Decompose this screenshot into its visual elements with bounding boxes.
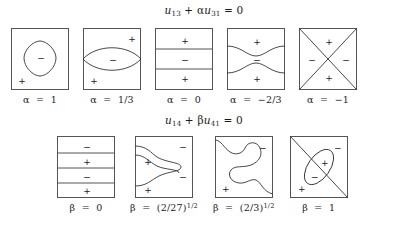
panel-beta-2: − + − + β = (2/27)1/2	[130, 136, 198, 213]
panel-beta-4-caption: β = 1	[302, 202, 335, 213]
caption-equals: =	[177, 94, 192, 105]
panel-alpha-2-caption: α = 1/3	[90, 94, 134, 105]
caption-symbol: β	[302, 202, 308, 213]
sign-plus-bottom-left: +	[90, 77, 98, 86]
sign-minus-1: −	[83, 143, 91, 152]
caption-symbol: β	[213, 202, 219, 213]
nodal-pattern-figure: u13 + αu31 = 0 − + α = 1	[0, 0, 408, 232]
panel-beta-3-box: − +	[215, 136, 273, 198]
panel-alpha-4-caption: α = −2/3	[230, 94, 282, 105]
panel-beta-2-caption: β = (2/27)1/2	[130, 202, 198, 213]
caption-exponent: 1/2	[187, 202, 198, 210]
sign-plus-top-right: +	[128, 35, 136, 44]
panel-alpha-5: + − − + α = −1	[299, 28, 357, 105]
sign-minus: −	[109, 56, 117, 65]
panel-beta-2-box: − + − +	[135, 136, 193, 198]
sign-plus-top: +	[181, 37, 189, 46]
beta-eq-equals: = 0	[224, 114, 243, 126]
sign-minus: −	[37, 54, 45, 63]
sign-minus-top-right: −	[334, 144, 342, 153]
beta-row-equation: u14 + βu41 = 0	[0, 114, 408, 128]
panel-beta-1: − + − + β = 0	[57, 136, 115, 213]
panel-beta-4-box: − + − +	[290, 136, 348, 198]
caption-equals: =	[139, 202, 154, 213]
sign-plus-bottom: +	[144, 186, 152, 195]
sign-minus-middle: −	[181, 56, 189, 65]
caption-equals: =	[311, 202, 326, 213]
sign-minus-top: −	[179, 143, 187, 152]
caption-equals: =	[100, 94, 115, 105]
sign-minus-inner-lower: −	[311, 173, 319, 182]
panel-alpha-2-box: − + +	[83, 28, 141, 90]
caption-symbol: β	[69, 202, 75, 213]
panel-alpha-5-caption: α = −1	[307, 94, 349, 105]
sign-plus-bottom-left: +	[298, 185, 306, 194]
alpha-panels: − + α = 1 − + +	[11, 28, 357, 105]
panel-alpha-1-caption: α = 1	[23, 94, 57, 105]
caption-value: 1	[51, 94, 57, 105]
sign-plus-1: +	[83, 158, 91, 167]
sign-plus-bottom-left: +	[222, 185, 230, 194]
alpha-eq-equals: = 0	[224, 4, 243, 16]
panel-beta-4: − + − + β = 1	[290, 136, 348, 213]
beta-eq-lhs-subscript: 14	[172, 119, 181, 128]
sign-minus-2: −	[83, 173, 91, 182]
caption-equals: =	[317, 94, 332, 105]
sign-plus: +	[18, 77, 26, 86]
caption-value: (2/3)	[240, 202, 264, 213]
alpha-row: u13 + αu31 = 0 − + α = 1	[0, 0, 408, 112]
caption-symbol: α	[307, 94, 314, 105]
caption-equals: =	[33, 94, 48, 105]
caption-value: 0	[195, 94, 201, 105]
panel-beta-3-caption: β = (2/3)1/2	[213, 202, 275, 213]
sign-plus-inner-upper: +	[321, 159, 329, 168]
sign-minus-middle: −	[253, 56, 261, 65]
caption-equals: =	[222, 202, 237, 213]
caption-value: 1/3	[118, 94, 134, 105]
sign-plus-top: +	[325, 38, 333, 47]
panel-alpha-3: + − + α = 0	[155, 28, 213, 105]
caption-symbol: α	[167, 94, 174, 105]
alpha-row-equation: u13 + αu31 = 0	[0, 4, 408, 18]
panel-alpha-3-box: + − +	[155, 28, 213, 90]
panel-beta-3: − + β = (2/3)1/2	[213, 136, 275, 213]
caption-equals: =	[78, 202, 93, 213]
panel-beta-1-box: − + − +	[57, 136, 115, 198]
sign-minus-left: −	[308, 56, 316, 65]
sign-minus-lower: −	[179, 173, 187, 182]
beta-panels: − + − + β = 0 −	[57, 136, 348, 213]
panel-alpha-4: + − + α = −2/3	[227, 28, 285, 105]
caption-symbol: α	[90, 94, 97, 105]
caption-symbol: α	[23, 94, 30, 105]
panel-alpha-1-box: − +	[11, 28, 69, 90]
caption-value: (2/27)	[157, 202, 187, 213]
caption-symbol: β	[130, 202, 136, 213]
sign-plus-bottom: +	[325, 74, 333, 83]
alpha-eq-rhs-subscript: 31	[211, 9, 220, 18]
panel-beta-1-caption: β = 0	[69, 202, 102, 213]
sign-minus-top-right: −	[259, 144, 267, 153]
caption-value: −2/3	[258, 94, 282, 105]
panel-alpha-1: − + α = 1	[11, 28, 69, 105]
caption-symbol: α	[230, 94, 237, 105]
sign-minus-right: −	[342, 56, 350, 65]
caption-value: 1	[329, 202, 335, 213]
sign-plus-top: +	[253, 38, 261, 47]
caption-value: 0	[96, 202, 102, 213]
caption-value: −1	[335, 94, 349, 105]
panel-alpha-3-caption: α = 0	[167, 94, 201, 105]
beta-row: u14 + βu41 = 0 − + − + β	[0, 110, 408, 232]
alpha-eq-lhs-subscript: 13	[171, 9, 180, 18]
panel-alpha-2: − + + α = 1/3	[83, 28, 141, 105]
caption-equals: =	[240, 94, 255, 105]
sign-plus-upper: +	[144, 158, 152, 167]
sign-plus-bottom: +	[253, 75, 261, 84]
sign-plus-2: +	[83, 187, 91, 196]
caption-exponent: 1/2	[263, 202, 274, 210]
panel-alpha-5-box: + − − +	[299, 28, 357, 90]
panel-alpha-4-box: + − +	[227, 28, 285, 90]
sign-plus-bottom: +	[181, 75, 189, 84]
beta-eq-rhs-subscript: 41	[211, 119, 220, 128]
